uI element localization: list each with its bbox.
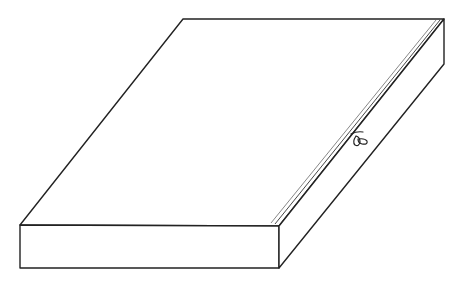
diagram-canvas [0,0,464,292]
front-face [20,225,279,268]
box-illustration [0,0,464,292]
